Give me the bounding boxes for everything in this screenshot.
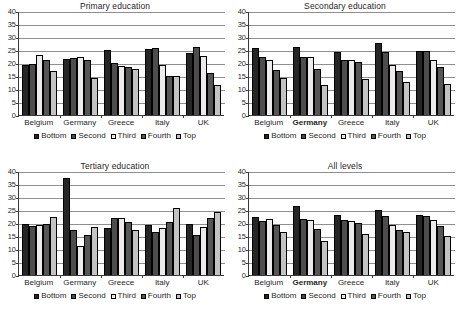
y-tick-label: 35: [0, 181, 16, 189]
x-tick-label-italy: Italy: [142, 116, 183, 129]
legend-swatch-icon: [141, 294, 146, 299]
legend-item-top[interactable]: Top: [176, 131, 196, 141]
y-axis: 4035302520151050: [230, 172, 246, 276]
legend-label: Fourth: [148, 131, 171, 141]
bar: [132, 230, 139, 275]
bar: [22, 65, 29, 115]
legend-label: Top: [183, 291, 196, 301]
bar: [375, 43, 382, 115]
bar-group: [19, 172, 60, 275]
bar: [29, 226, 36, 275]
bar: [348, 221, 355, 275]
y-tick-label: 35: [230, 21, 246, 29]
legend-item-fourth[interactable]: Fourth: [371, 291, 401, 301]
legend-item-second[interactable]: Second: [71, 131, 105, 141]
bar: [91, 78, 98, 115]
bar: [437, 226, 444, 275]
bar: [396, 71, 403, 115]
bar: [173, 76, 180, 115]
legend-item-bottom[interactable]: Bottom: [34, 131, 66, 141]
bar: [63, 178, 70, 275]
bar: [70, 230, 77, 276]
bar: [159, 228, 166, 275]
legend-item-second[interactable]: Second: [301, 131, 335, 141]
legend-item-third[interactable]: Third: [341, 291, 366, 301]
legend-swatch-icon: [141, 134, 146, 139]
legend-item-bottom[interactable]: Bottom: [264, 131, 296, 141]
bar: [29, 64, 36, 115]
y-tick-label: 40: [230, 168, 246, 176]
bar: [36, 55, 43, 115]
y-tick-label: 15: [0, 233, 16, 241]
bar: [70, 58, 77, 115]
x-axis-labels: BelgiumGermanyGreeceItalyUK: [248, 276, 454, 289]
legend-swatch-icon: [264, 294, 269, 299]
legend-item-third[interactable]: Third: [341, 131, 366, 141]
bar-group: [142, 12, 183, 115]
legend-swatch-icon: [71, 294, 76, 299]
legend-swatch-icon: [264, 134, 269, 139]
legend-item-fourth[interactable]: Fourth: [141, 291, 171, 301]
legend-swatch-icon: [371, 294, 376, 299]
bar: [403, 232, 410, 275]
bar: [293, 206, 300, 275]
legend-item-bottom[interactable]: Bottom: [34, 291, 66, 301]
y-tick-label: 20: [0, 60, 16, 68]
legend-item-fourth[interactable]: Fourth: [141, 131, 171, 141]
legend-item-top[interactable]: Top: [406, 291, 426, 301]
bar: [193, 47, 200, 115]
legend-item-second[interactable]: Second: [71, 291, 105, 301]
bar-groups: [19, 172, 224, 275]
legend-item-bottom[interactable]: Bottom: [264, 291, 296, 301]
bar: [152, 232, 159, 275]
y-tick-label: 5: [0, 259, 16, 267]
bar-group: [183, 172, 224, 275]
x-tick-label-belgium: Belgium: [18, 276, 59, 289]
legend-item-top[interactable]: Top: [406, 131, 426, 141]
legend-label: Fourth: [378, 291, 401, 301]
legend-item-top[interactable]: Top: [176, 291, 196, 301]
bar-groups: [19, 12, 224, 115]
bar: [152, 48, 159, 115]
x-tick-label-germany: Germany: [59, 116, 100, 129]
legend-item-third[interactable]: Third: [111, 131, 136, 141]
bar: [430, 220, 437, 275]
legend-label: Second: [78, 291, 105, 301]
bar-group: [372, 12, 413, 115]
bar: [125, 67, 132, 115]
bar: [43, 60, 50, 115]
bar: [166, 76, 173, 115]
y-tick-label: 5: [230, 259, 246, 267]
legend-item-fourth[interactable]: Fourth: [371, 131, 401, 141]
bar: [293, 47, 300, 115]
bar: [252, 217, 259, 275]
y-tick-label: 5: [0, 99, 16, 107]
legend-swatch-icon: [406, 134, 411, 139]
plot-box: [248, 12, 454, 116]
y-tick-label: 0: [0, 272, 16, 280]
chart-legend: BottomSecondThirdFourthTop: [230, 291, 460, 301]
bar: [166, 222, 173, 275]
bar: [321, 241, 328, 275]
plot-area: 4035302520151050: [18, 12, 224, 116]
y-tick-label: 0: [230, 112, 246, 120]
chart-legend: BottomSecondThirdFourthTop: [230, 131, 460, 141]
bar: [200, 227, 207, 275]
y-tick-label: 25: [0, 47, 16, 55]
legend-label: Top: [183, 131, 196, 141]
bar: [355, 223, 362, 275]
y-tick-label: 35: [230, 181, 246, 189]
legend-swatch-icon: [111, 294, 116, 299]
legend-item-second[interactable]: Second: [301, 291, 335, 301]
legend-label: Third: [118, 131, 136, 141]
bar: [50, 71, 57, 115]
x-tick-label-belgium: Belgium: [18, 116, 59, 129]
y-tick-label: 40: [230, 8, 246, 16]
chart-panel-2: Secondary education4035302520151050Belgi…: [230, 0, 460, 160]
bar: [84, 60, 91, 115]
bar: [423, 216, 430, 275]
plot-area: 4035302520151050: [18, 172, 224, 276]
legend-item-third[interactable]: Third: [111, 291, 136, 301]
x-axis-labels: BelgiumGermanyGreeceItalyUK: [248, 116, 454, 129]
bar: [444, 236, 451, 275]
